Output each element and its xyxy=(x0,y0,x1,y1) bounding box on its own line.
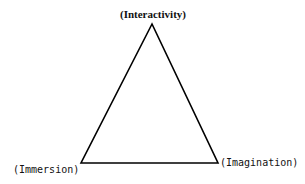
vertex-label-immersion: (Immersion) xyxy=(13,165,79,175)
vertex-label-imagination: (Imagination) xyxy=(220,158,298,168)
vertex-label-interactivity: (Interactivity) xyxy=(93,9,213,20)
diagram-canvas: (Interactivity) (Immersion) (Imagination… xyxy=(0,0,305,184)
